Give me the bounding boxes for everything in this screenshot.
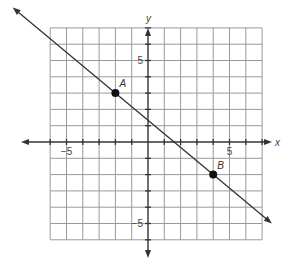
x-tick-label: 5 <box>227 146 233 157</box>
x-axis-left-arrow-icon <box>21 139 29 145</box>
grid <box>50 28 262 240</box>
y-tick-label: 5 <box>137 55 143 66</box>
y-axis-label: y <box>145 13 152 24</box>
y-tick-label: −5 <box>132 218 144 229</box>
y-axis-down-arrow-icon <box>145 250 151 258</box>
point-label-a: A <box>118 78 126 89</box>
coordinate-plane: xy −555−5 AB <box>0 0 291 273</box>
axes: xy <box>21 13 281 258</box>
y-axis-up-arrow-icon <box>145 28 151 36</box>
point-b <box>209 171 217 179</box>
x-tick-label: −5 <box>61 146 73 157</box>
point-label-b: B <box>217 160 224 171</box>
point-a <box>111 89 119 97</box>
axis-ticks <box>50 28 262 240</box>
x-axis-right-arrow-icon <box>264 139 272 145</box>
x-axis-label: x <box>274 137 281 148</box>
line-ab <box>17 11 268 221</box>
